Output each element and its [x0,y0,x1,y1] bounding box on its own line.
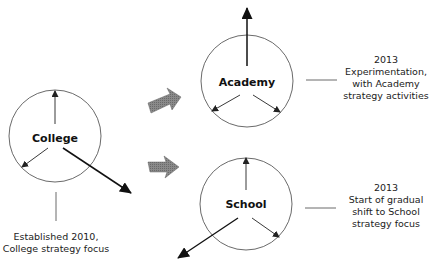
academy-node: Academy [201,8,337,127]
college-label: College [32,132,78,145]
college-note-line: College strategy focus [0,243,112,255]
academy-note-line: 2013 [336,54,436,66]
block-arrow-to-academy [148,88,181,113]
academy-note-line: strategy activities [336,90,436,102]
block-arrow-to-school [148,156,179,178]
academy-note-line: with Academy [336,78,436,90]
school-node: School [178,158,336,258]
school-annotation: 2013 Start of gradual shift to School st… [336,182,436,230]
college-note-line: Established 2010, [0,231,112,243]
academy-annotation: 2013 Experimentation, with Academy strat… [336,54,436,102]
college-annotation: Established 2010, College strategy focus [0,231,112,255]
academy-note-line: Experimentation, [336,66,436,78]
school-label: School [225,198,266,211]
strategy-evolution-diagram: College Academy School Established 2010,… [0,0,436,271]
school-note-line: Start of gradual [336,194,436,206]
school-note-line: shift to School [336,206,436,218]
school-note-line: strategy focus [336,218,436,230]
school-note-line: 2013 [336,182,436,194]
academy-label: Academy [219,76,275,89]
college-node: College [9,90,131,221]
